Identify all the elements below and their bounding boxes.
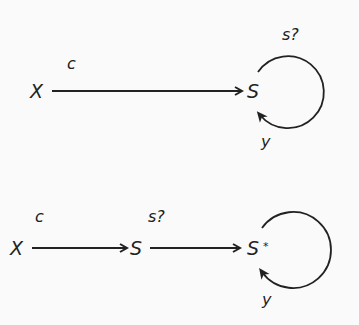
diagram-canvas (0, 0, 359, 325)
bottom-node-s-star: S (247, 239, 259, 258)
top-node-x: X (30, 82, 43, 101)
top-node-s: S (247, 82, 259, 101)
top-self-loop (258, 56, 324, 128)
bottom-node-x: X (10, 239, 23, 258)
bottom-node-s: S (130, 239, 142, 258)
top-loop-label-y: y (261, 134, 270, 150)
bottom-self-loop (262, 212, 331, 288)
bottom-edge-label-c: c (35, 209, 44, 225)
bottom-loop-label-y: y (262, 292, 271, 308)
bottom-node-s-star-superscript: * (263, 240, 269, 253)
bottom-node-s-star-label: S (247, 237, 259, 259)
bottom-edge-label-s-query: s? (148, 209, 165, 225)
top-edge-label-c: c (67, 56, 76, 72)
top-loop-label-s-query: s? (282, 27, 299, 43)
